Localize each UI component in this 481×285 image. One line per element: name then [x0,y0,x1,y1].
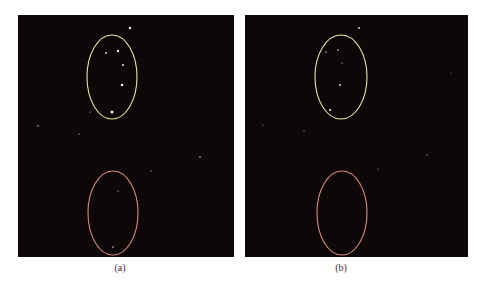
bright-point [263,125,264,126]
bright-point [358,27,360,29]
bright-point [105,52,107,54]
bright-point [426,154,427,155]
bright-point [89,111,90,112]
bright-point [117,50,119,52]
bright-point [117,190,118,191]
panel-b-caption: (b) [321,262,361,273]
bright-point [339,84,341,86]
bright-point [110,110,113,113]
panel-a-overlay [18,15,234,257]
bright-point [329,109,331,111]
bright-point [129,27,131,29]
bright-point [37,125,38,126]
bright-point [451,73,452,74]
upper-region-ellipse [315,35,367,119]
panel-a-image [18,15,234,257]
panel-b-overlay [245,15,468,257]
bright-point [112,246,114,248]
lower-region-ellipse [88,171,138,255]
bright-point [78,133,79,134]
bright-point [304,131,305,132]
lower-region-ellipse [317,171,367,255]
upper-region-ellipse [87,35,137,119]
bright-point [378,169,379,170]
bright-point [337,49,339,51]
panel-b-image [245,15,468,257]
bright-point [199,156,201,158]
panel-a-caption: (a) [100,262,140,273]
bright-point [122,64,124,66]
bright-point [121,84,124,87]
bright-point [150,170,151,171]
bright-point [341,62,342,63]
bright-point [325,51,326,52]
